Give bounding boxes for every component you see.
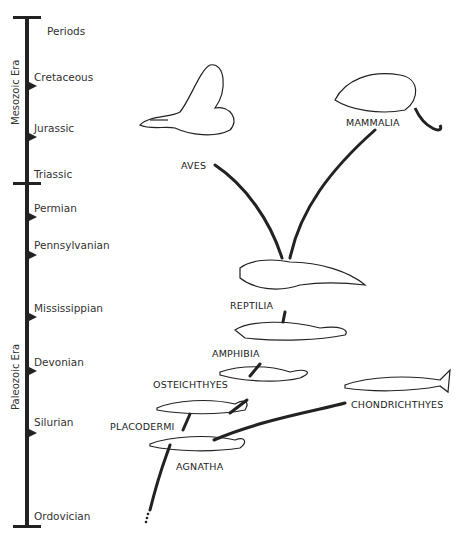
phylogenetic-tree <box>0 0 462 541</box>
branch-reptilia <box>283 312 285 322</box>
branch-aves <box>215 165 282 258</box>
stem-branch <box>150 445 170 510</box>
taxon-label-mammalia: MAMMALIA <box>346 117 400 128</box>
placodermi-illustration <box>157 401 247 414</box>
branch-amphibia <box>250 364 260 376</box>
branch-placodermi <box>183 414 190 430</box>
branch-mammalia <box>290 130 375 258</box>
taxon-label-amphibia: AMPHIBIA <box>212 348 260 359</box>
taxon-label-osteichthyes: OSTEICHTHYES <box>153 379 228 390</box>
agnatha-illustration <box>150 437 245 451</box>
taxon-label-chondrichthyes: CHONDRICHTHYES <box>351 399 443 410</box>
taxon-label-reptilia: REPTILIA <box>230 300 273 311</box>
bird-illustration <box>140 65 234 135</box>
chondrichthyes-illustration <box>345 370 450 392</box>
taxon-label-agnatha: AGNATHA <box>176 461 223 472</box>
osteichthyes-illustration <box>220 367 307 381</box>
taxon-label-placodermi: PLACODERMI <box>110 421 175 432</box>
reptile-illustration <box>240 260 365 289</box>
amphibian-illustration <box>235 322 346 340</box>
taxon-label-aves: AVES <box>181 160 206 171</box>
